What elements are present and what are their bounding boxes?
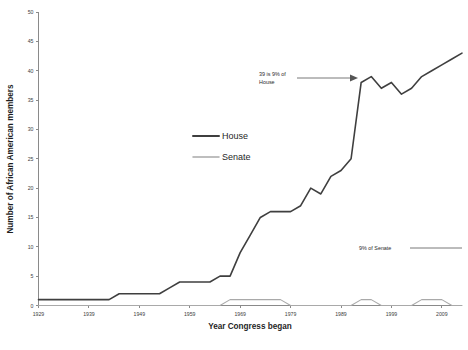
data-series-group xyxy=(39,53,463,305)
y-tick-label: 40 xyxy=(28,68,34,74)
house-annotation-arrow-head xyxy=(350,74,358,81)
y-axis-ticks: 05101520253035404550 xyxy=(28,9,39,309)
x-tick-label: 1989 xyxy=(335,311,347,317)
legend: House Senate xyxy=(193,131,251,162)
x-tick-label: 1969 xyxy=(234,311,246,317)
x-tick-label: 1939 xyxy=(83,311,95,317)
y-tick-label: 20 xyxy=(28,185,34,191)
y-tick-label: 5 xyxy=(31,273,34,279)
x-axis-group: 192919391949195919691979198919992009 Yea… xyxy=(33,306,462,332)
y-tick-label: 30 xyxy=(28,126,34,132)
y-tick-label: 10 xyxy=(28,244,34,250)
x-tick-label: 1959 xyxy=(184,311,196,317)
y-axis-group: 05101520253035404550 Number of African A… xyxy=(6,9,39,309)
legend-label-senate: Senate xyxy=(222,152,251,162)
x-axis-title: Year Congress began xyxy=(208,322,292,331)
house-annotation-line1: 39 is 9% of xyxy=(259,71,286,77)
x-tick-label: 1929 xyxy=(33,311,45,317)
y-axis-title: Number of African American members xyxy=(6,84,15,234)
y-tick-label: 25 xyxy=(28,156,34,162)
x-tick-label: 1979 xyxy=(285,311,297,317)
house-annotation-line2: House xyxy=(259,79,275,85)
senate-reference-annotation: 9% of Senate xyxy=(359,245,462,251)
x-tick-label: 1949 xyxy=(134,311,146,317)
chart-container: 05101520253035404550 Number of African A… xyxy=(0,0,468,350)
x-tick-label: 1999 xyxy=(386,311,398,317)
line-chart: 05101520253035404550 Number of African A… xyxy=(0,0,468,350)
senate-annotation-label: 9% of Senate xyxy=(359,245,391,251)
y-tick-label: 15 xyxy=(28,214,34,220)
series-line-senate xyxy=(39,300,463,306)
series-line-house xyxy=(39,53,463,300)
y-tick-label: 45 xyxy=(28,38,34,44)
y-tick-label: 50 xyxy=(28,9,34,15)
x-tick-label: 2009 xyxy=(436,311,448,317)
legend-label-house: House xyxy=(222,131,248,141)
house-peak-annotation: 39 is 9% of House xyxy=(259,71,358,85)
y-tick-label: 35 xyxy=(28,97,34,103)
y-tick-label: 0 xyxy=(31,303,34,309)
x-axis-ticks: 192919391949195919691979198919992009 xyxy=(33,306,448,317)
